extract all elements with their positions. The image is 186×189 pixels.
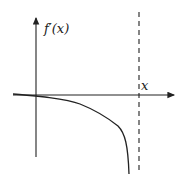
derivative-curve	[13, 94, 129, 174]
graph-canvas	[0, 0, 186, 189]
y-axis-label: f′(x)	[44, 21, 69, 36]
x-axis-label: x	[141, 78, 148, 93]
